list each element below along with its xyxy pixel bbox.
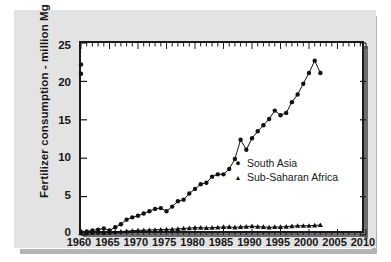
screenshot-root: Fertilizer consumption - million Mg 0 5 … bbox=[0, 0, 391, 262]
legend-label-sub-saharan-africa: Sub-Saharan Africa bbox=[247, 171, 338, 183]
legend-label-south-asia: South Asia bbox=[247, 157, 297, 169]
circle-marker-icon: ● bbox=[232, 159, 244, 168]
y-tick-label-20: 20 bbox=[45, 76, 71, 88]
figure-panel: Fertilizer consumption - million Mg 0 5 … bbox=[14, 10, 376, 248]
x-tick-label-2010: 2010 bbox=[343, 236, 383, 248]
y-tick-label-25: 25 bbox=[45, 39, 71, 51]
y-tick-label-15: 15 bbox=[45, 114, 71, 126]
chart-canvas bbox=[81, 43, 366, 235]
legend-item-south-asia: ● South Asia bbox=[232, 156, 338, 170]
chart-legend: ● South Asia ▲ Sub-Saharan Africa bbox=[232, 156, 338, 184]
panel-shadow-bottom bbox=[20, 249, 377, 254]
y-tick-label-10: 10 bbox=[45, 151, 71, 163]
legend-item-sub-saharan-africa: ▲ Sub-Saharan Africa bbox=[232, 170, 338, 184]
triangle-marker-icon: ▲ bbox=[232, 174, 244, 181]
plot-area bbox=[79, 41, 364, 233]
y-tick-label-5: 5 bbox=[45, 189, 71, 201]
